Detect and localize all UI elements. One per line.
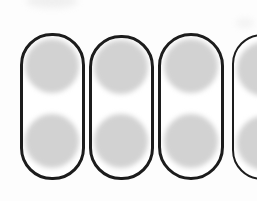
capsule-shape-partial	[232, 34, 257, 180]
capsule-3-disc-bottom	[164, 114, 218, 168]
capsule-2-disc-top	[94, 40, 148, 94]
capsule-shape-3	[158, 33, 224, 180]
capsule-2-disc-bottom	[94, 114, 148, 168]
paper-smudge-top-right	[236, 18, 254, 28]
capsule-1-disc-bottom	[25, 114, 79, 168]
capsule-partial-disc-top	[237, 42, 257, 96]
capsule-shape-2	[89, 35, 154, 180]
paper-smudge-top-left	[26, 0, 78, 8]
capsule-shape-1	[20, 33, 85, 180]
capsule-1-disc-top	[25, 39, 79, 93]
capsule-3-disc-top	[164, 39, 218, 93]
figure-canvas	[0, 0, 257, 201]
capsule-partial-disc-bottom	[237, 116, 257, 170]
